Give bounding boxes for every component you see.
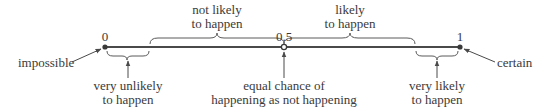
label-likely-line2: to happen: [325, 17, 376, 31]
brace-very-likely: [416, 51, 458, 60]
label-not-likely-line2: to happen: [192, 17, 243, 31]
label-very-unlikely-line1: very unlikely: [94, 79, 163, 93]
point-1-label: 1: [457, 30, 464, 44]
point-half-label: 0.5: [276, 30, 292, 44]
label-certain: certain: [497, 56, 532, 70]
point-1-dot: [457, 44, 462, 49]
brace-likely: [284, 33, 415, 44]
label-not-likely-line1: not likely: [192, 3, 243, 17]
label-very-likely-line2: to happen: [409, 93, 465, 107]
label-equal-chance: equal chance of happening as not happeni…: [211, 79, 357, 107]
point-0-dot: [102, 44, 107, 49]
arrow-certain: [464, 49, 495, 62]
label-impossible: impossible: [18, 56, 74, 70]
label-equal-chance-line2: happening as not happening: [211, 93, 357, 107]
label-equal-chance-line1: equal chance of: [211, 79, 357, 93]
label-very-likely-line1: very likely: [409, 79, 465, 93]
label-very-unlikely: very unlikely to happen: [94, 79, 163, 107]
brace-very-unlikely: [107, 51, 149, 60]
arrow-impossible: [72, 49, 101, 62]
brace-not-likely: [150, 33, 284, 44]
label-very-likely: very likely to happen: [409, 79, 465, 107]
label-very-unlikely-line2: to happen: [94, 93, 163, 107]
point-half-dot: [281, 44, 286, 49]
label-not-likely: not likely to happen: [192, 3, 243, 31]
label-likely: likely to happen: [325, 3, 376, 31]
label-likely-line1: likely: [325, 3, 376, 17]
point-0-label: 0: [102, 30, 109, 44]
